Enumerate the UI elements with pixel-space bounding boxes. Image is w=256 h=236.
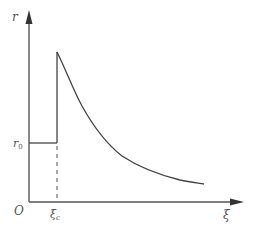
r0-label: r0	[13, 137, 23, 151]
xi-c-sub: c	[56, 214, 60, 222]
r-xi-diagram: r ξ O r0 ξc	[0, 0, 256, 236]
r0-sub: 0	[18, 143, 22, 151]
origin-label: O	[14, 204, 24, 218]
y-axis-label: r	[12, 10, 19, 24]
y-axis-arrow-icon	[26, 10, 33, 24]
x-axis-arrow-icon	[230, 199, 244, 206]
decay-curve	[57, 52, 204, 184]
x-axis-label: ξ	[223, 208, 231, 222]
xi-c-label: ξc	[50, 208, 60, 222]
